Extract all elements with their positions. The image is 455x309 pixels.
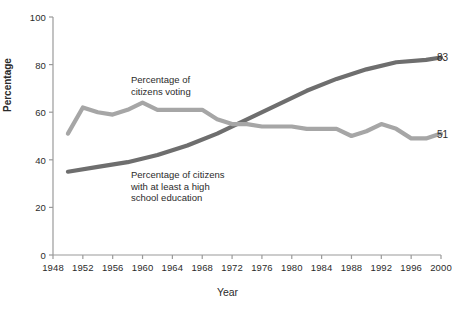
x-axis-tick-label: 1956	[102, 262, 124, 273]
x-axis-tick-label: 1968	[191, 262, 213, 273]
y-axis-tick-label: 0	[20, 250, 46, 261]
x-axis-ticks	[53, 255, 441, 259]
y-axis-tick-label: 40	[20, 154, 46, 165]
x-axis-tick-label: 1972	[221, 262, 243, 273]
x-axis-tick-label: 1996	[400, 262, 422, 273]
x-axis-tick-label: 1964	[162, 262, 184, 273]
y-axis-tick-label: 80	[20, 59, 46, 70]
endpoint-label-voting: 51	[437, 128, 448, 139]
x-axis-tick-label: 1960	[132, 262, 154, 273]
x-axis-tick-label: 1948	[42, 262, 64, 273]
y-axis-tick-label: 60	[20, 107, 46, 118]
x-axis-tick-label: 2000	[430, 262, 452, 273]
y-axis-tick-label: 100	[20, 12, 46, 23]
x-axis-tick-label: 1992	[371, 262, 393, 273]
x-axis-tick-label: 1988	[341, 262, 363, 273]
line-chart: Percentage Year 020406080100 19481952195…	[0, 0, 455, 309]
annotation-voting: Percentage of citizens voting	[131, 74, 191, 97]
annotation-education: Percentage of citizens with at least a h…	[131, 169, 224, 204]
series-line-education	[68, 57, 441, 171]
x-axis-tick-label: 1980	[281, 262, 303, 273]
x-axis-tick-label: 1984	[311, 262, 333, 273]
axes-group	[49, 17, 441, 259]
series-line-voting	[68, 103, 441, 139]
y-axis-title: Percentage	[2, 58, 13, 112]
x-axis-tick-label: 1976	[251, 262, 273, 273]
x-axis-tick-label: 1952	[72, 262, 94, 273]
y-axis-tick-label: 20	[20, 202, 46, 213]
x-axis-title: Year	[0, 286, 455, 298]
series-group	[68, 57, 441, 171]
endpoint-label-education: 83	[437, 52, 448, 63]
